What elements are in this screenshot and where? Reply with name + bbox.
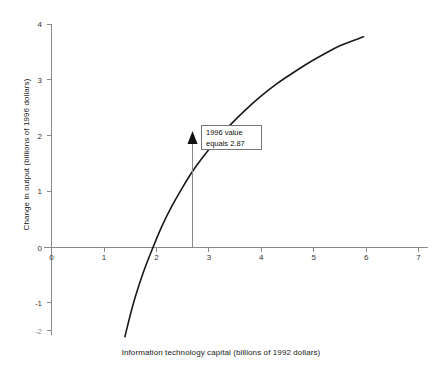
callout-arrow-icon <box>188 131 198 144</box>
x-axis-tick-labels: 0 1 2 3 4 5 6 7 <box>49 253 421 262</box>
x-tick-label: 2 <box>154 253 159 262</box>
y-tick-label: 0 <box>38 244 43 253</box>
y-tick-label: 4 <box>38 20 43 29</box>
x-tick-label: 3 <box>207 253 212 262</box>
x-tick-label: 4 <box>259 253 264 262</box>
x-axis-title: Information technology capital (billions… <box>0 348 442 357</box>
callout-line-2: equals 2.87 <box>206 139 245 148</box>
x-tick-label: 0 <box>49 253 54 262</box>
y-tick-label: 2 <box>38 132 43 141</box>
x-tick-label: 6 <box>364 253 369 262</box>
y-axis-ticks <box>47 24 52 330</box>
x-tick-label: 5 <box>311 253 316 262</box>
y-axis-title: Change in output (billions of 1996 dolla… <box>22 45 31 265</box>
x-tick-label: 7 <box>416 253 421 262</box>
y-axis-tick-labels: 4 3 2 1 0 -1 -2 <box>35 20 43 335</box>
chart-canvas: 0 1 2 3 4 5 6 7 4 3 2 1 0 -1 -2 1996 val… <box>0 0 442 367</box>
x-axis-ticks <box>52 248 419 253</box>
x-tick-label: 1 <box>102 253 107 262</box>
output-response-curve <box>125 37 364 337</box>
callout-line-1: 1996 value <box>206 128 243 137</box>
y-tick-label: -1 <box>35 299 43 308</box>
y-tick-label: 1 <box>38 187 43 196</box>
y-tick-label: 3 <box>38 76 43 85</box>
chart-figure: 0 1 2 3 4 5 6 7 4 3 2 1 0 -1 -2 1996 val… <box>0 0 442 367</box>
y-tick-label: -2 <box>35 327 43 336</box>
